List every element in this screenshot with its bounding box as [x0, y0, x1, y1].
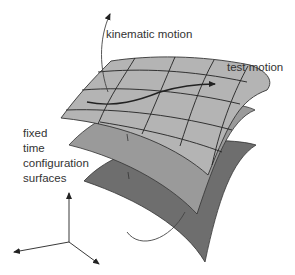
coordinate-axes [14, 193, 99, 264]
kinematic-motion-label: kinematic motion [106, 28, 192, 40]
test-motion-label: test motion [227, 61, 283, 73]
surfaces-label-line1: fixed [23, 127, 47, 139]
surfaces-label-line3: configuration [23, 157, 89, 169]
diagram-canvas: kinematic motion test motion fixed time … [0, 0, 295, 275]
surfaces-label-line4: surfaces [23, 172, 67, 184]
surfaces-label-line2: time [23, 142, 45, 154]
